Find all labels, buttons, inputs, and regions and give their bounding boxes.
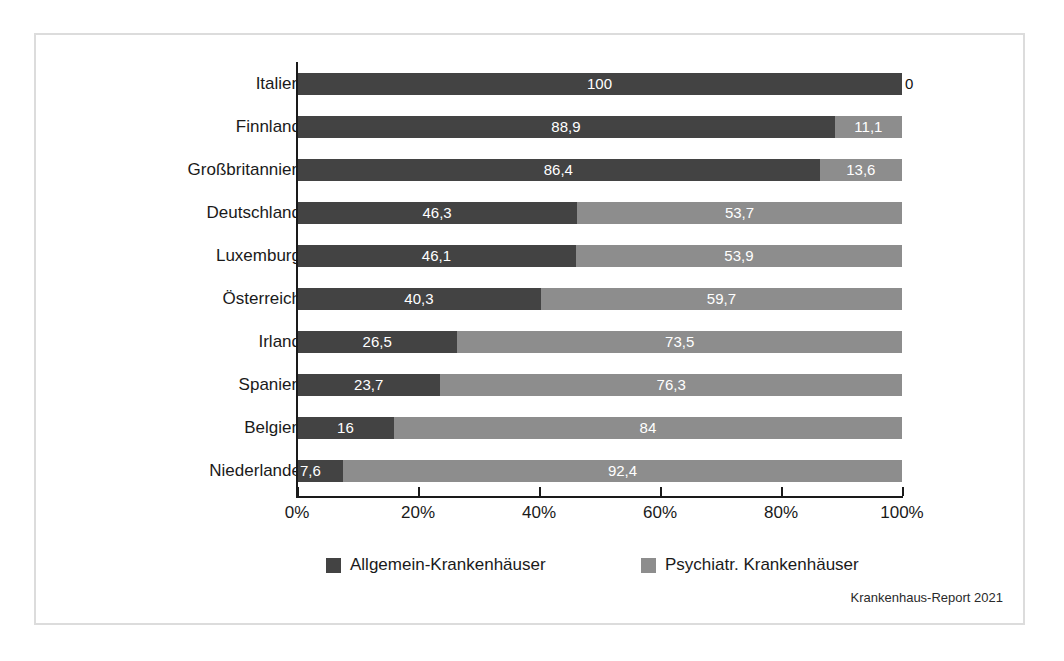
stacked-bar: 40,359,7: [297, 288, 902, 310]
bar-row: Spanien23,776,3: [36, 374, 1027, 417]
bar-segment-psychiatr: 84: [394, 417, 902, 439]
stacked-bar: 1684: [297, 417, 902, 439]
bar-segment-allgemein: 23,7: [297, 374, 440, 396]
x-axis-tick-label: 0%: [237, 503, 357, 523]
chart-legend: Allgemein-KrankenhäuserPsychiatr. Kranke…: [36, 553, 1027, 583]
category-label: Großbritannien: [1, 159, 301, 181]
legend-item-psychiatr[interactable]: Psychiatr. Krankenhäuser: [641, 553, 859, 577]
bar-segment-allgemein: 46,1: [297, 245, 576, 267]
bar-row: Österreich40,359,7: [36, 288, 1027, 331]
bar-segment-allgemein: 26,5: [297, 331, 457, 353]
bar-row: Finnland88,911,1: [36, 116, 1027, 159]
x-axis-tick: [660, 487, 662, 496]
category-label: Niederlande: [1, 460, 301, 482]
x-axis-line: [296, 496, 903, 498]
source-note: Krankenhaus-Report 2021: [851, 590, 1004, 605]
legend-swatch-icon: [326, 558, 341, 573]
y-axis-line: [296, 62, 298, 496]
bar-row: Deutschland46,353,7: [36, 202, 1027, 245]
category-label: Finnland: [1, 116, 301, 138]
category-label: Österreich: [1, 288, 301, 310]
category-label: Spanien: [1, 374, 301, 396]
chart-frame: Italien1000Finnland88,911,1Großbritannie…: [34, 33, 1025, 625]
category-label: Irland: [1, 331, 301, 353]
category-label: Italien: [1, 73, 301, 95]
legend-label: Allgemein-Krankenhäuser: [350, 555, 546, 575]
bar-segment-psychiatr: 13,6: [820, 159, 902, 181]
x-axis-tick-label: 20%: [358, 503, 478, 523]
x-axis-tick: [539, 487, 541, 496]
bar-segment-psychiatr: 76,3: [440, 374, 902, 396]
bar-segment-allgemein: 100: [297, 73, 902, 95]
x-axis-tick: [781, 487, 783, 496]
bar-segment-psychiatr: 73,5: [457, 331, 902, 353]
stacked-bar: 23,776,3: [297, 374, 902, 396]
bar-row: Irland26,573,5: [36, 331, 1027, 374]
stacked-bar: 46,353,7: [297, 202, 902, 224]
bar-segment-psychiatr: 53,7: [577, 202, 902, 224]
bar-segment-psychiatr: 59,7: [541, 288, 902, 310]
bar-segment-allgemein: 7,6: [297, 460, 343, 482]
x-axis-tick-label: 80%: [721, 503, 841, 523]
bar-segment-allgemein: 86,4: [297, 159, 820, 181]
bar-row: Luxemburg46,153,9: [36, 245, 1027, 288]
stacked-bar: 86,413,6: [297, 159, 902, 181]
stacked-bar: 46,153,9: [297, 245, 902, 267]
bar-row: Großbritannien86,413,6: [36, 159, 1027, 202]
category-label: Deutschland: [1, 202, 301, 224]
stacked-bar: 1000: [297, 73, 902, 95]
bar-segment-psychiatr: 53,9: [576, 245, 902, 267]
bar-value-label-psychiatr: 0: [905, 73, 913, 95]
bar-segment-psychiatr: 11,1: [835, 116, 902, 138]
legend-item-allgemein[interactable]: Allgemein-Krankenhäuser: [326, 553, 546, 577]
x-axis-tick: [418, 487, 420, 496]
bar-segment-allgemein: 46,3: [297, 202, 577, 224]
x-axis-tick: [297, 487, 299, 496]
x-axis-tick-label: 100%: [842, 503, 962, 523]
category-label: Belgien: [1, 417, 301, 439]
bar-segment-allgemein: 16: [297, 417, 394, 439]
bar-row: Belgien1684: [36, 417, 1027, 460]
stacked-bar: 88,911,1: [297, 116, 902, 138]
stacked-bar: 7,692,4: [297, 460, 902, 482]
stacked-bar: 26,573,5: [297, 331, 902, 353]
legend-swatch-icon: [641, 558, 656, 573]
x-axis-tick: [902, 487, 904, 496]
category-label: Luxemburg: [1, 245, 301, 267]
x-axis-tick-label: 40%: [479, 503, 599, 523]
x-axis-tick-label: 60%: [600, 503, 720, 523]
bar-segment-allgemein: 88,9: [297, 116, 835, 138]
legend-label: Psychiatr. Krankenhäuser: [665, 555, 859, 575]
chart-plot-area: Italien1000Finnland88,911,1Großbritannie…: [36, 35, 1027, 627]
bar-segment-psychiatr: 92,4: [343, 460, 902, 482]
bar-row: Italien1000: [36, 73, 1027, 116]
bar-segment-allgemein: 40,3: [297, 288, 541, 310]
